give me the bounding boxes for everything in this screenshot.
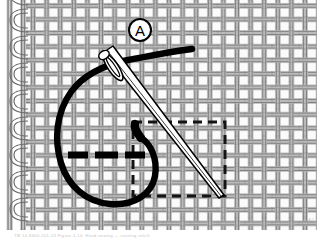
figure-container: A TM 10-8400-201-23 Figure 4-14. Hand se… [0,0,317,243]
figure-caption: TM 10-8400-201-23 Figure 4-14. Hand sewi… [14,233,150,238]
fabric-weave [19,0,317,236]
selvage-edge [7,0,28,230]
callout-label: A [135,22,145,39]
callout-a: A [129,19,151,41]
corner-mark: A-1 [309,218,314,222]
stitching-diagram: A [0,0,317,243]
